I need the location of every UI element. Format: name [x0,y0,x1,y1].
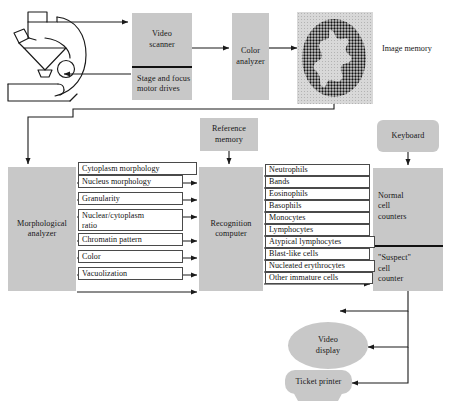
feature-signal-label: Nucleus morphology [82,177,151,187]
block-video-display: Video display [288,322,368,369]
video-scanner-label: Video scanner [149,29,175,50]
feature-signal-label: Vacuolization [82,269,127,279]
block-suspect-cell-counter: "Suspect" cell counter [373,247,443,291]
block-video-scanner: Video scanner [132,13,192,66]
cell-class-row: Nucleated erythrocytes [265,260,375,272]
cell-class-row: Blast-like cells [265,248,370,260]
cell-class-label: Eosinophils [269,189,308,199]
feature-signal-label: Chromatin pattern [82,235,142,245]
feature-signal-label: Cytoplasm morphology [82,164,160,174]
cell-class-label: Blast-like cells [269,249,318,259]
block-ticket-printer: Ticket printer [285,370,352,394]
keyboard-label: Keyboard [391,131,424,142]
block-diagram: Video scanner Stage and focus motor driv… [0,0,452,404]
feature-signal-row: Nuclear/cytoplasm ratio [78,209,183,231]
video-display-label: Video display [316,335,340,356]
cell-class-label: Atypical lymphocytes [269,237,341,247]
suspect-cell-counter-label: "Suspect" cell counter [378,253,411,285]
morphological-analyzer-label: Morphological analyzer [17,219,67,240]
arrow-bus-to-video-display [368,311,408,347]
stage-motor-drives-label: Stage and focus motor drives [137,74,190,95]
cell-class-row: Basophils [265,200,370,212]
cell-class-label: Nucleated erythrocytes [269,261,345,271]
block-normal-cell-counters: Normal cell counters [373,168,443,245]
microscope-icon [8,12,86,101]
color-analyzer-label: Color analyzer [236,46,265,67]
cell-class-row: Monocytes [265,212,370,224]
cell-class-row: Neutrophils [265,164,370,176]
block-reference-memory: Reference memory [200,118,258,151]
feature-signal-row: Cytoplasm morphology [78,162,197,175]
recognition-computer-label: Recognition computer [210,219,251,240]
feature-signal-row: Color [78,250,183,263]
feature-signal-label: Nuclear/cytoplasm ratio [82,211,144,230]
cell-class-row: Other immature cells [265,272,373,284]
block-keyboard: Keyboard [377,120,439,152]
feature-signal-label: Color [82,252,101,262]
cell-class-label: Neutrophils [269,165,308,175]
cell-class-label: Monocytes [269,213,305,223]
image-memory-caption: Image memory [382,44,432,53]
cell-class-label: Lymphocytes [269,225,313,235]
block-recognition-computer: Recognition computer [199,167,263,291]
image-memory-cell-picture [297,12,373,104]
block-morphological-analyzer: Morphological analyzer [8,167,76,291]
reference-memory-label: Reference memory [212,124,246,145]
normal-cell-counters-label: Normal cell counters [378,191,407,223]
feature-signal-label: Granularity [82,194,120,204]
cell-class-row: Bands [265,176,370,188]
block-stage-motor-drives: Stage and focus motor drives [132,68,192,100]
block-color-analyzer: Color analyzer [232,13,269,100]
feature-signal-row: Chromatin pattern [78,233,183,246]
feature-signal-row: Granularity [78,192,183,205]
feature-signal-row: Vacuolization [78,267,183,280]
arrow-image-memory-to-morphological-analyzer [28,103,334,164]
ticket-printer-label: Ticket printer [296,377,342,388]
arrow-counters-to-output-bus [340,291,408,311]
cell-class-row: Atypical lymphocytes [265,236,375,248]
feature-signal-row: Nucleus morphology [78,175,183,188]
cell-class-row: Eosinophils [265,188,370,200]
cell-class-label: Other immature cells [269,273,338,283]
cell-class-label: Bands [269,177,289,187]
cell-class-label: Basophils [269,201,301,211]
cell-class-row: Lymphocytes [265,224,370,236]
